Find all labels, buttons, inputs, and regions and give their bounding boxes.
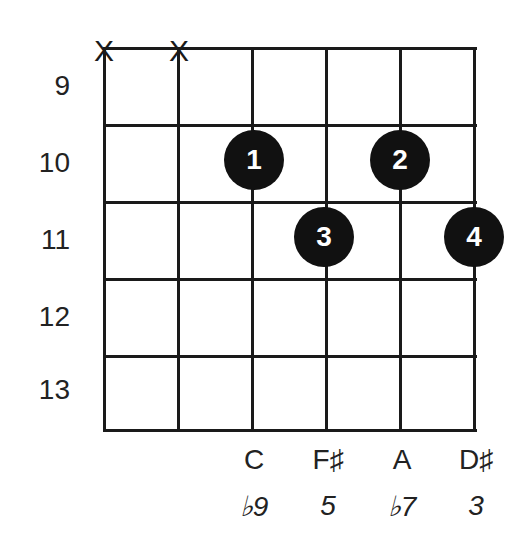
fret-line-3 (103, 278, 477, 281)
finger-dot-1: 1 (224, 130, 284, 190)
fret-label-9: 9 (10, 70, 70, 102)
string-line-5 (399, 47, 402, 432)
fretboard-grid (103, 47, 474, 432)
fret-label-12: 12 (10, 301, 70, 333)
finger-dot-4: 4 (444, 207, 504, 267)
string-line-3 (251, 47, 254, 432)
string-line-1 (103, 47, 106, 432)
fret-line-2 (103, 201, 477, 204)
string-line-2 (177, 47, 180, 432)
fret-line-4 (103, 355, 477, 358)
note-label-string-6: D♯ (446, 444, 506, 476)
fret-label-13: 13 (10, 374, 70, 406)
fret-line-5 (103, 429, 477, 432)
note-label-string-5: A (372, 444, 432, 476)
mute-marker-string-2: X (164, 36, 194, 66)
finger-dot-3: 3 (294, 207, 354, 267)
interval-label-string-6: 3 (446, 490, 506, 522)
fret-line-0 (103, 47, 477, 50)
interval-label-string-4: 5 (298, 490, 358, 522)
interval-label-string-5: ♭7 (372, 490, 432, 523)
finger-dot-2: 2 (370, 130, 430, 190)
fret-label-11: 11 (10, 224, 70, 256)
note-label-string-3: C (224, 444, 284, 476)
note-label-string-4: F♯ (298, 444, 358, 476)
fret-label-10: 10 (10, 147, 70, 179)
interval-label-string-3: ♭9 (224, 490, 284, 523)
fret-line-1 (103, 124, 477, 127)
mute-marker-string-1: X (89, 36, 119, 66)
